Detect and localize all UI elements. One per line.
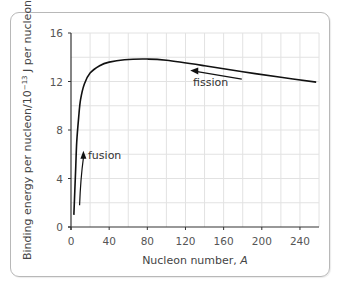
y-axis-label: Binding energy per nucleon/10−13 J per n… — [21, 0, 34, 260]
y-tick-label: 4 — [56, 173, 63, 185]
y-tick-label: 12 — [50, 76, 63, 88]
x-tick-label: 0 — [68, 235, 75, 247]
fusion-arrowhead-icon — [80, 151, 86, 159]
x-tick-label: 40 — [102, 235, 115, 247]
y-tick-label: 8 — [56, 124, 63, 136]
fission-label: fission — [193, 76, 228, 89]
binding-energy-chart: 04080120160200240 0481216 fusion fission… — [0, 0, 337, 287]
y-tick-label: 16 — [50, 27, 64, 39]
x-tick-labels: 04080120160200240 — [68, 227, 310, 247]
x-tick-label: 200 — [252, 235, 272, 247]
y-tick-label: 0 — [56, 221, 63, 233]
x-tick-label: 240 — [290, 235, 310, 247]
fusion-annotation: fusion — [80, 149, 122, 205]
fission-arrowhead-icon — [190, 68, 198, 75]
x-tick-label: 80 — [141, 235, 154, 247]
x-tick-label: 160 — [214, 235, 234, 247]
fusion-arrow-icon — [80, 158, 84, 205]
fusion-label: fusion — [88, 149, 121, 162]
x-tick-label: 120 — [175, 235, 195, 247]
x-axis-label: Nucleon number, A — [142, 254, 248, 267]
y-tick-labels: 0481216 — [50, 27, 71, 233]
